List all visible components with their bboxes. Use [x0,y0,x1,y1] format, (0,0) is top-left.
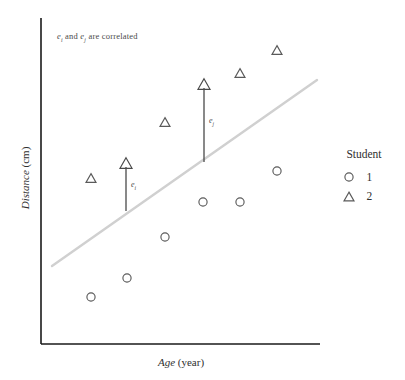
data-point [236,198,244,206]
legend-title: Student [326,148,402,160]
x-axis-title-italic: Age [158,356,175,368]
legend-circle-icon [340,170,358,184]
legend-label: 1 [358,171,389,183]
arrow-head-triangle [120,158,132,169]
y-axis-title: Distance (cm) [19,108,31,248]
regression-line [52,80,317,266]
correlation-annotation: ei and ej are correlated [57,31,138,43]
data-point [160,118,170,127]
y-axis-title-unit: (cm) [19,147,31,171]
data-point [273,167,281,175]
legend-rows: 12 [326,169,402,203]
data-point [86,174,96,183]
data-point [235,69,245,78]
x-axis-title-unit: (year) [175,356,204,368]
residual-label-e-j: ej [209,116,214,127]
legend-item-1[interactable]: 1 [326,169,402,184]
data-point [199,198,207,206]
legend-triangle-icon [340,189,358,203]
chart-canvas: ei and ej are correlated ei ej Age (year… [0,0,405,380]
legend-item-2[interactable]: 2 [326,188,402,203]
data-point [123,274,131,282]
residual-label-e-i: ei [131,180,136,191]
residual-arrows [120,79,210,211]
x-axis-title: Age (year) [41,356,321,368]
data-point [87,293,95,301]
y-axis-title-italic: Distance [19,170,31,209]
legend: Student 12 [326,148,402,207]
data-point [161,233,169,241]
legend-label: 2 [358,190,389,202]
arrow-head-triangle [198,79,210,90]
data-point [272,46,282,55]
